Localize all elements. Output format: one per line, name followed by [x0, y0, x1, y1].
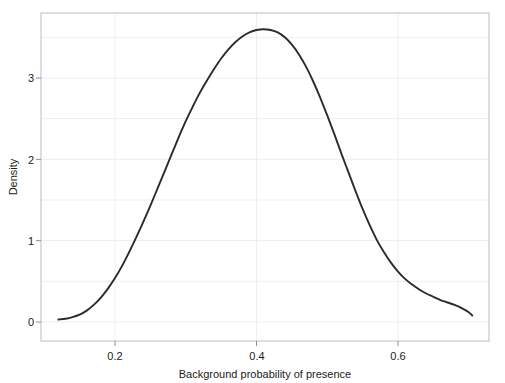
density-plot: 0 1 2 3 0.2 0.4 0.6 Background probabili… — [0, 0, 505, 383]
chart-canvas: 0 1 2 3 0.2 0.4 0.6 Background probabili… — [0, 0, 505, 383]
x-axis-title: Background probability of presence — [179, 368, 351, 380]
y-tick-label-3: 3 — [28, 72, 34, 84]
y-tick-label-2: 2 — [28, 154, 34, 166]
x-tick-label-1: 0.4 — [249, 350, 264, 362]
y-tick-label-1: 1 — [28, 235, 34, 247]
y-axis-title: Density — [7, 158, 19, 195]
y-tick-label-0: 0 — [28, 316, 34, 328]
x-tick-label-0: 0.2 — [107, 350, 122, 362]
x-tick-label-2: 0.6 — [390, 350, 405, 362]
